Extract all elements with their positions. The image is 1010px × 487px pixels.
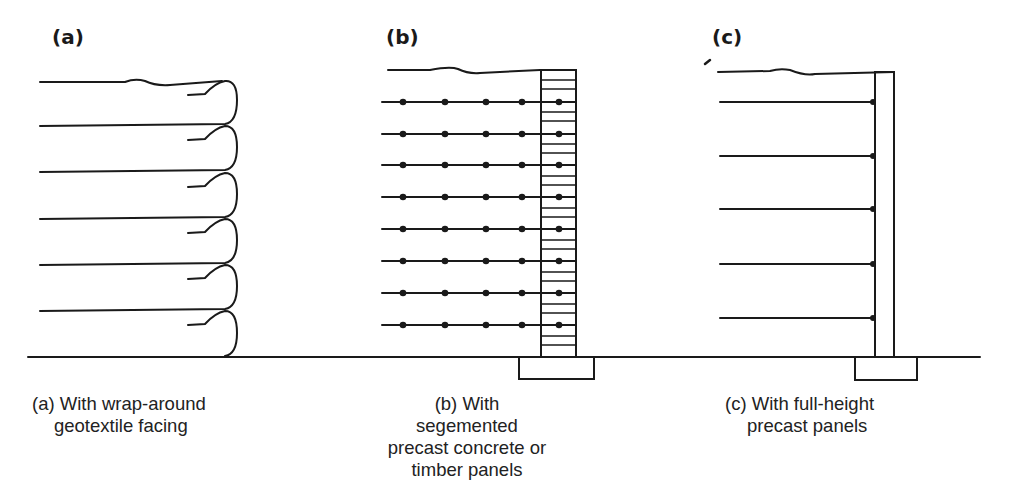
caption-b-line-1: (b) With segemented [382, 393, 552, 437]
reinforcing-strips [720, 102, 875, 318]
facing-joints [541, 80, 576, 345]
caption-c-line-1: (c) With full-height [725, 393, 874, 415]
caption-c: (c) With full-height precast panels [725, 393, 874, 437]
caption-a-line-1: (a) With wrap-around [32, 393, 206, 415]
caption-a: (a) With wrap-around geotextile facing [32, 393, 206, 437]
soil-surface [718, 69, 894, 74]
survey-mark [705, 60, 710, 64]
geotextile-layer [188, 311, 237, 356]
caption-c-line-2: precast panels [725, 415, 874, 437]
geotextile-layer [40, 173, 237, 219]
segmental-facing [541, 70, 576, 357]
panel-c-full-height-wall [705, 60, 917, 380]
geotextile-layer [40, 81, 237, 126]
leveling-pad-footing [855, 357, 917, 380]
full-height-panel [875, 72, 894, 357]
caption-b-line-2: precast concrete or [382, 437, 552, 459]
geotextile-layer [40, 265, 237, 311]
panel-label-a: (a) [52, 25, 84, 49]
geotextile-layer [40, 126, 237, 172]
panel-a-wrap-around-wall [40, 80, 237, 356]
geotextile-layer [40, 219, 237, 265]
panel-b-segmental-wall [382, 68, 594, 379]
panel-label-b: (b) [386, 25, 419, 49]
reinforcing-strips [382, 102, 576, 325]
panel-label-c: (c) [712, 25, 742, 49]
soil-surface [388, 68, 540, 73]
caption-a-line-2: geotextile facing [32, 415, 206, 437]
soil-surface [40, 80, 222, 85]
leveling-pad-footing [519, 357, 594, 379]
caption-b-line-3: timber panels [382, 459, 552, 481]
caption-b: (b) With segemented precast concrete or … [382, 393, 552, 481]
